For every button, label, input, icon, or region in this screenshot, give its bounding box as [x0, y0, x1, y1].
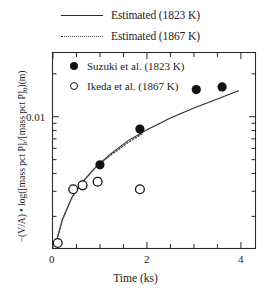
data-point-ikeda-et-al-1867-k- — [93, 177, 102, 186]
data-point-ikeda-et-al-1867-k- — [69, 185, 78, 194]
x-axis-label: Time (ks) — [0, 272, 271, 284]
plot-canvas — [0, 0, 271, 293]
legend-label-suzuki: Suzuki et al. (1823 K) — [87, 60, 184, 72]
data-point-ikeda-et-al-1867-k- — [78, 181, 87, 190]
legend-label-ikeda: Ikeda et al. (1867 K) — [87, 80, 178, 92]
y-axis-label: −(V/A) • log([mass pct P]t/[mass pct P]0… — [16, 56, 29, 256]
data-point-ikeda-et-al-1867-k- — [136, 185, 145, 194]
legend-row-ikeda: Ikeda et al. (1867 K) — [66, 76, 226, 96]
filled-circle-marker-icon — [66, 62, 82, 70]
ytick-label-0.01: 0.01 — [26, 111, 45, 123]
data-point-suzuki-et-al-1823-k- — [95, 160, 104, 169]
xtick-label-2: 2 — [144, 253, 150, 265]
xtick-label-0: 0 — [49, 253, 55, 265]
data-point-ikeda-et-al-1867-k- — [53, 239, 62, 248]
legend-row-suzuki: Suzuki et al. (1823 K) — [66, 56, 226, 76]
chart-figure: Estimated (1823 K) Estimated (1867 K) 0.… — [0, 0, 271, 293]
y-axis-label-sub-0: 0 — [21, 88, 28, 91]
data-point-suzuki-et-al-1823-k- — [135, 124, 144, 133]
y-axis-label-suffix: )(m) — [16, 71, 27, 88]
y-axis-label-mid: /[mass pct P] — [16, 91, 27, 141]
y-axis-label-prefix: −(V/A) • log([mass pct P] — [16, 143, 27, 242]
open-circle-marker-icon — [66, 82, 82, 90]
inner-legend: Suzuki et al. (1823 K) Ikeda et al. (186… — [66, 56, 226, 96]
xtick-label-4: 4 — [238, 253, 244, 265]
